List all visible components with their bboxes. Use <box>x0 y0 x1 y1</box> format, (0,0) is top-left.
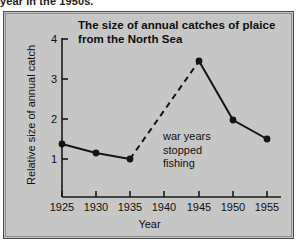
data-line-postwar <box>199 61 267 139</box>
caption-text-fragment: year in the 1950s. <box>0 0 297 9</box>
y-tick-label-1: 1 <box>43 153 57 165</box>
x-tick-label-1945: 1945 <box>182 201 216 213</box>
x-tick-label-1925: 1925 <box>45 201 79 213</box>
y-tick-label-3: 3 <box>43 73 57 85</box>
y-tick-label-2: 2 <box>43 113 57 125</box>
annotation-line-1: war years <box>163 130 211 144</box>
y-axis-title: Relative size of annual catch <box>25 35 37 195</box>
x-tick-label-1955: 1955 <box>250 201 284 213</box>
x-axis-ticks <box>62 191 267 197</box>
x-tick-label-1940: 1940 <box>147 201 181 213</box>
x-tick-label-1930: 1930 <box>79 201 113 213</box>
data-point-1950 <box>230 117 237 124</box>
x-tick-label-1935: 1935 <box>113 201 147 213</box>
data-point-1945 <box>196 58 203 65</box>
y-tick-label-4: 4 <box>43 33 57 45</box>
data-point-1955 <box>264 136 271 143</box>
data-point-1930 <box>93 150 100 157</box>
x-tick-label-1950: 1950 <box>216 201 250 213</box>
data-point-1935 <box>127 156 134 163</box>
chart-figure: The size of annual catches of plaice fro… <box>3 11 294 239</box>
x-axis-title: Year <box>4 218 295 230</box>
annotation-line-2: stopped <box>163 144 211 158</box>
data-point-1925 <box>59 141 66 148</box>
war-years-annotation: war years stopped fishing <box>163 130 211 171</box>
annotation-line-3: fishing <box>163 157 211 171</box>
